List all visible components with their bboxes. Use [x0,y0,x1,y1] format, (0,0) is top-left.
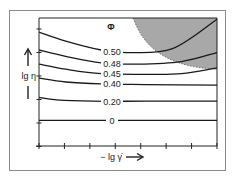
y-axis-arrow-icon [25,49,32,66]
curve-label: 0 [109,116,114,126]
curve-phi-0_20 [39,97,217,101]
chart-svg: 00.200.400.450.480.50 Φ − lg γ̇ lg η [0,0,232,178]
curve-label: 0.40 [103,79,121,89]
y-axis-label: lg η [21,71,36,81]
curve-label: 0.50 [103,47,121,57]
x-axis-arrow-icon [126,154,143,161]
shaded-region [133,18,217,69]
legend-title-phi: Φ [107,22,115,32]
curve-label: 0.20 [103,97,121,107]
curve-phi-0_40 [39,78,217,85]
x-axis-label: − lg γ̇ [100,152,123,162]
curve-label: 0.48 [103,59,121,69]
curve-label: 0.45 [103,69,121,79]
